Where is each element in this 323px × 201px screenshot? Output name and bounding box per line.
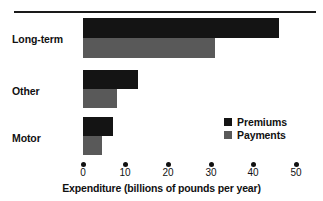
legend: Premiums Payments — [224, 116, 287, 142]
legend-swatch-payments-icon — [224, 131, 232, 139]
bar-chart: Long-term Other Motor Premiums Payments — [0, 0, 323, 201]
category-label-other: Other — [12, 86, 40, 97]
axis-tick-label-10: 10 — [110, 168, 140, 178]
axis-tick-label-0: 0 — [68, 168, 98, 178]
axis-tick-label-40: 40 — [238, 168, 268, 178]
bar-long-term-premiums — [83, 18, 279, 38]
bar-motor-premiums — [83, 117, 113, 136]
bar-other-premiums — [83, 70, 138, 89]
category-label-motor: Motor — [12, 133, 41, 144]
legend-item-premiums: Premiums — [224, 116, 287, 128]
legend-swatch-premiums-icon — [224, 118, 232, 126]
category-label-long-term: Long-term — [12, 34, 63, 45]
legend-label-premiums: Premiums — [237, 117, 287, 128]
legend-label-payments: Payments — [237, 130, 286, 141]
axis-tick-label-30: 30 — [196, 168, 226, 178]
bar-other-payments — [83, 89, 117, 108]
legend-item-payments: Payments — [224, 129, 287, 141]
x-axis-title: Expenditure (billions of pounds per year… — [0, 183, 323, 194]
bar-long-term-payments — [83, 38, 215, 58]
axis-tick-label-20: 20 — [153, 168, 183, 178]
plot-area: Long-term Other Motor Premiums Payments — [0, 0, 323, 201]
axis-tick-label-50: 50 — [281, 168, 311, 178]
bar-motor-payments — [83, 136, 102, 155]
